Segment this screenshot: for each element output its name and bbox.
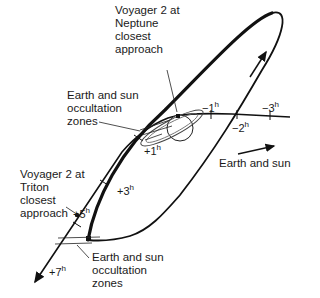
time-mark-minus-1h: −1h: [202, 98, 219, 115]
time-mark-plus-3h: +3h: [117, 181, 134, 198]
time-mark-minus-3h: −3h: [262, 98, 279, 115]
triton-position-marker: [86, 236, 91, 241]
label-neptune-closest-approach: Voyager 2 at Neptune closest approach: [115, 4, 180, 56]
time-mark-plus-5h: +5h: [73, 204, 90, 221]
time-mark-minus-2h: −2h: [232, 118, 249, 135]
time-mark-plus-7h: +7h: [49, 262, 66, 279]
label-occultation-zones-lower: Earth and sun occultation zones: [92, 251, 164, 290]
label-occultation-zones-upper: Earth and sun occultation zones: [67, 89, 139, 128]
earth-sun-direction-arrow: [238, 146, 274, 154]
label-earth-and-sun: Earth and sun: [219, 157, 291, 170]
time-mark-plus-1h: +1h: [144, 141, 161, 158]
neptune-closest-marker: [176, 114, 180, 118]
orbit-direction-arrow: [250, 52, 266, 77]
